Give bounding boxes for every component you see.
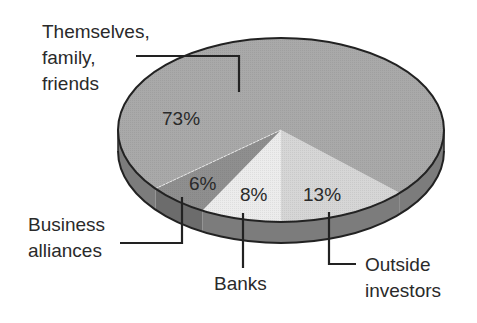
label-themselves-line2: family, xyxy=(42,45,150,71)
pie-top xyxy=(118,38,444,222)
label-outside: Outside investors xyxy=(365,252,441,304)
label-themselves-line3: friends xyxy=(42,71,150,97)
pct-outside: 13% xyxy=(303,185,341,205)
label-business-line1: Business xyxy=(28,212,105,238)
pct-business: 6% xyxy=(189,174,216,194)
label-themselves-line1: Themselves, xyxy=(42,19,150,45)
label-business-line2: alliances xyxy=(28,238,105,264)
label-banks: Banks xyxy=(214,271,267,297)
label-banks-line1: Banks xyxy=(214,271,267,297)
label-themselves: Themselves, family, friends xyxy=(42,19,150,97)
label-outside-line1: Outside xyxy=(365,252,441,278)
label-business: Business alliances xyxy=(28,212,105,264)
pct-banks: 8% xyxy=(240,185,267,205)
label-outside-line2: investors xyxy=(365,278,441,304)
pct-themselves: 73% xyxy=(162,109,200,129)
